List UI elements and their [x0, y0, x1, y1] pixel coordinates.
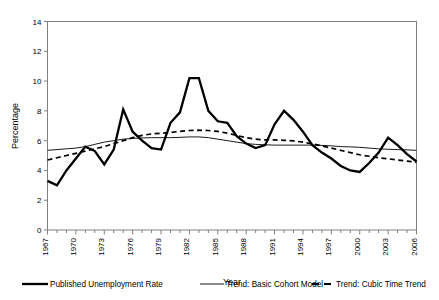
y-axis-title: Percentage	[10, 103, 20, 149]
x-axis-tick-label: 2003	[381, 237, 390, 255]
x-axis-tick-label: 2000	[353, 237, 362, 255]
x-axis-tick-label: 1994	[296, 237, 305, 255]
y-axis: 02468101214	[33, 18, 48, 236]
series-line	[48, 130, 417, 162]
x-axis-tick-label: 1991	[268, 237, 277, 255]
x-axis-tick-label: 1970	[69, 237, 78, 255]
data-series-group	[48, 78, 417, 185]
legend-item-label: Trend: Basic Cohort Model	[226, 280, 323, 289]
series-line	[48, 137, 417, 150]
y-axis-tick-label: 6	[37, 137, 42, 146]
y-axis-tick-label: 4	[37, 166, 42, 175]
x-axis-tick-label: 1967	[41, 237, 50, 255]
x-axis-tick-label: 2006	[410, 237, 419, 255]
series-line	[48, 78, 417, 185]
y-axis-tick-label: 10	[33, 77, 42, 86]
legend-item-label: Published Unemployment Rate	[50, 280, 163, 289]
x-axis-tick-label: 1982	[182, 237, 191, 255]
y-axis-tick-label: 8	[37, 107, 42, 116]
x-axis-tick-label: 1976	[126, 237, 135, 255]
unemployment-trend-chart: 02468101214 1967197019731976197919821985…	[0, 0, 439, 300]
x-axis-tick-label: 1997	[324, 237, 333, 255]
x-axis-tick-label: 1985	[211, 237, 220, 255]
x-axis-tick-label: 1988	[239, 237, 248, 255]
y-axis-tick-label: 2	[37, 196, 42, 205]
x-axis-tick-label: 1973	[97, 237, 106, 255]
legend-item-label: Trend: Cubic Time Trend	[336, 280, 426, 289]
x-axis-tick-label: 1979	[154, 237, 163, 255]
plot-frame	[48, 22, 417, 231]
x-axis: 1967197019731976197919821985198819911994…	[41, 230, 419, 256]
plot-area-border	[48, 22, 417, 231]
y-axis-tick-label: 0	[37, 226, 42, 235]
chart-canvas: 02468101214 1967197019731976197919821985…	[0, 0, 439, 300]
y-axis-tick-label: 12	[33, 47, 42, 56]
y-axis-tick-label: 14	[33, 18, 42, 27]
